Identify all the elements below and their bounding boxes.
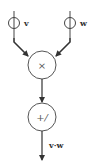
input-w-label: w xyxy=(79,18,88,28)
input-v-label: v xyxy=(23,18,29,28)
sum-symbol: +/ xyxy=(36,112,49,123)
multiply-node: × xyxy=(28,51,56,79)
input-v: v xyxy=(9,11,30,56)
multiply-symbol: × xyxy=(38,60,46,71)
input-w: w xyxy=(56,11,88,56)
dot-product-diagram: v w × +/ v·w xyxy=(0,0,90,167)
output-label: v·w xyxy=(48,140,64,150)
arrow-w-to-multiply xyxy=(56,38,70,56)
sum-node: +/ xyxy=(28,103,56,131)
arrow-v-to-multiply xyxy=(14,38,28,56)
